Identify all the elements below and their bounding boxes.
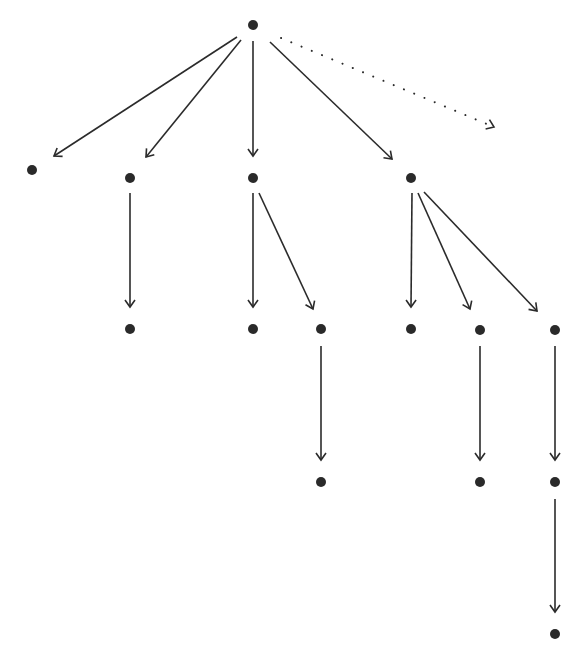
arrow-d-to-d1 xyxy=(411,193,412,307)
tree-diagram xyxy=(0,0,586,663)
tree-node-b xyxy=(125,173,135,183)
arrow-d-to-d3 xyxy=(424,192,537,311)
tree-node-d3b xyxy=(550,629,560,639)
arrow-d-to-d2 xyxy=(418,193,470,309)
arrow-root-to-b xyxy=(146,40,241,157)
tree-node-d3a xyxy=(550,477,560,487)
tree-node-c2a xyxy=(316,477,326,487)
tree-node-d1 xyxy=(406,324,416,334)
tree-node-c xyxy=(248,173,258,183)
tree-node-d3 xyxy=(550,325,560,335)
tree-node-c2 xyxy=(316,324,326,334)
tree-node-d2a xyxy=(475,477,485,487)
arrow-root-to-a xyxy=(54,37,237,156)
tree-node-d2 xyxy=(475,325,485,335)
nodes-layer xyxy=(27,20,560,639)
tree-node-c1 xyxy=(248,324,258,334)
arrow-c-to-c2 xyxy=(259,193,313,309)
tree-node-b1 xyxy=(125,324,135,334)
arrow-root-to-d xyxy=(270,42,392,159)
tree-node-d xyxy=(406,173,416,183)
tree-node-a xyxy=(27,165,37,175)
tree-node-root xyxy=(248,20,258,30)
